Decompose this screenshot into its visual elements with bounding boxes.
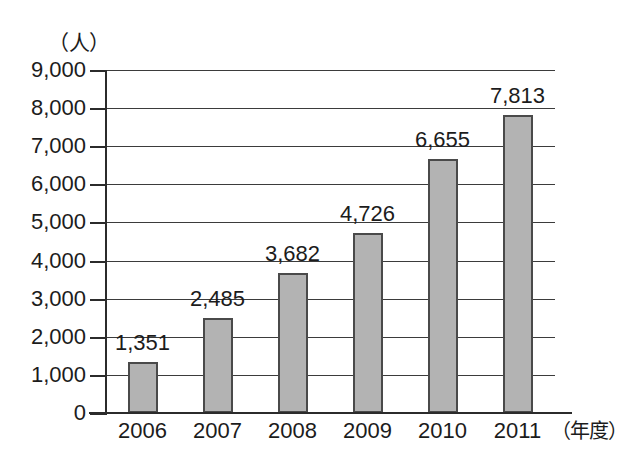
- y-axis-tick: [90, 70, 105, 72]
- bar-value-label: 7,813: [470, 85, 566, 107]
- y-axis-tick-label: 9,000: [2, 59, 86, 81]
- y-axis-tick: [90, 222, 105, 224]
- y-axis-tick: [90, 299, 105, 301]
- y-axis-tick-label: 4,000: [2, 250, 86, 272]
- y-axis-tick: [90, 146, 105, 148]
- y-axis-tick-label: 1,000: [2, 364, 86, 386]
- gridline: [105, 375, 555, 376]
- bar: [353, 233, 383, 413]
- y-axis-tick: [90, 375, 105, 377]
- bar: [503, 115, 533, 413]
- y-axis-line: [105, 70, 107, 415]
- y-axis-tick-label: 5,000: [2, 211, 86, 233]
- x-axis-tick-label: 2011: [470, 420, 566, 442]
- bar: [428, 159, 458, 413]
- bar-value-label: 1,351: [95, 332, 191, 354]
- y-axis-tick-label: 3,000: [2, 288, 86, 310]
- y-axis-tick-label: 7,000: [2, 135, 86, 157]
- y-axis-tick-label: 2,000: [2, 326, 86, 348]
- plot-area: [105, 70, 555, 413]
- y-axis-tick: [90, 413, 105, 415]
- bar: [203, 318, 233, 413]
- y-axis-tick-label: 8,000: [2, 97, 86, 119]
- bar: [128, 362, 158, 413]
- y-axis-tick-label: 6,000: [2, 173, 86, 195]
- bar-value-label: 4,726: [320, 203, 416, 225]
- gridline: [105, 108, 555, 109]
- bar-chart: （人） 01,0002,0003,0004,0005,0006,0007,000…: [0, 0, 637, 469]
- bar-value-label: 2,485: [170, 288, 266, 310]
- gridline: [105, 184, 555, 185]
- y-axis-tick-label: 0: [2, 402, 86, 424]
- y-axis-tick: [90, 108, 105, 110]
- y-axis-tick: [90, 184, 105, 186]
- bar-value-label: 6,655: [395, 129, 491, 151]
- x-axis-line: [89, 412, 572, 414]
- gridline: [105, 70, 555, 71]
- y-axis-tick: [90, 261, 105, 263]
- bar-value-label: 3,682: [245, 243, 341, 265]
- bar: [278, 273, 308, 413]
- y-axis-tick-labels: 01,0002,0003,0004,0005,0006,0007,0008,00…: [0, 0, 86, 469]
